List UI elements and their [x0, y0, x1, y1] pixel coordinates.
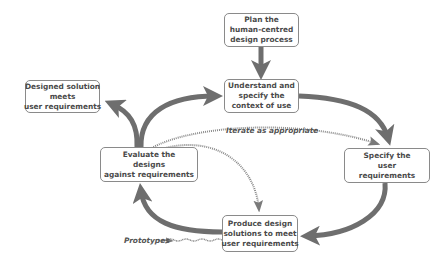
node-produce-line-1: Produce design	[228, 219, 292, 229]
node-understand-line-2: specify the	[238, 91, 284, 101]
node-evaluate-line-2: designs	[133, 160, 165, 170]
node-evaluate: Evaluate the designs against requirement…	[100, 147, 198, 182]
node-produce-line-3: user requirements	[221, 239, 298, 249]
iterate-label: Iterate as appropriate	[226, 126, 318, 135]
arrow-evaluate-to-designed	[112, 104, 137, 147]
node-plan-line-1: Plan the	[244, 15, 279, 25]
node-specify: Specify the user requirements	[344, 148, 430, 183]
node-plan-line-2: human-centred	[230, 25, 294, 35]
node-designed-line-3: user requirements	[24, 102, 101, 112]
arrow-produce-to-evaluate	[141, 191, 222, 232]
arrows-layer	[0, 0, 442, 267]
prototypes-label: Prototypes	[124, 236, 170, 245]
node-specify-line-1: Specify the	[364, 151, 411, 161]
node-evaluate-line-3: against requirements	[104, 170, 194, 180]
node-designed-line-1: Designed solution	[25, 82, 100, 92]
arrow-specify-to-produce	[308, 183, 385, 236]
node-designed-line-2: meets	[50, 92, 76, 102]
node-designed-solution: Designed solution meets user requirement…	[25, 80, 100, 113]
node-specify-line-2: user	[378, 161, 396, 171]
node-specify-line-3: requirements	[359, 171, 415, 181]
node-evaluate-line-1: Evaluate the	[123, 150, 176, 160]
node-understand: Understand and specify the context of us…	[224, 79, 299, 113]
node-understand-line-3: context of use	[232, 101, 292, 111]
arrow-evaluate-to-understand	[141, 96, 215, 147]
node-produce: Produce design solutions to meet user re…	[222, 215, 298, 252]
node-plan-line-3: design process	[230, 35, 293, 45]
node-understand-line-1: Understand and	[228, 81, 295, 91]
node-plan: Plan the human-centred design process	[224, 13, 299, 47]
node-produce-line-2: solutions to meet	[223, 229, 296, 239]
